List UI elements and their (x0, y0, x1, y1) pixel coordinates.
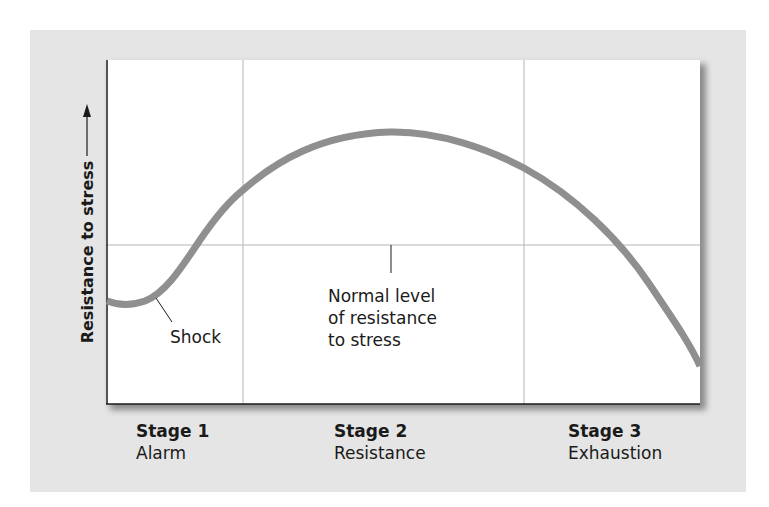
normal-level-label-line-3: to stress (328, 329, 437, 351)
normal-level-label: Normal level of resistance to stress (328, 285, 437, 351)
stage-3-name: Exhaustion (568, 442, 662, 464)
stage-2-label: Stage 2 Resistance (334, 420, 426, 464)
stage-3-number: Stage 3 (568, 420, 662, 442)
normal-level-label-line-2: of resistance (328, 307, 437, 329)
stage-2-name: Resistance (334, 442, 426, 464)
stage-2-number: Stage 2 (334, 420, 426, 442)
normal-level-label-line-1: Normal level (328, 285, 437, 307)
shock-label: Shock (170, 326, 221, 348)
y-axis-label: Resistance to stress (78, 161, 97, 344)
stage-1-label: Stage 1 Alarm (136, 420, 209, 464)
stage-1-number: Stage 1 (136, 420, 209, 442)
stage-3-label: Stage 3 Exhaustion (568, 420, 662, 464)
stage-1-name: Alarm (136, 442, 209, 464)
arrow-up-icon (83, 104, 91, 117)
shock-leader-line (156, 298, 172, 322)
